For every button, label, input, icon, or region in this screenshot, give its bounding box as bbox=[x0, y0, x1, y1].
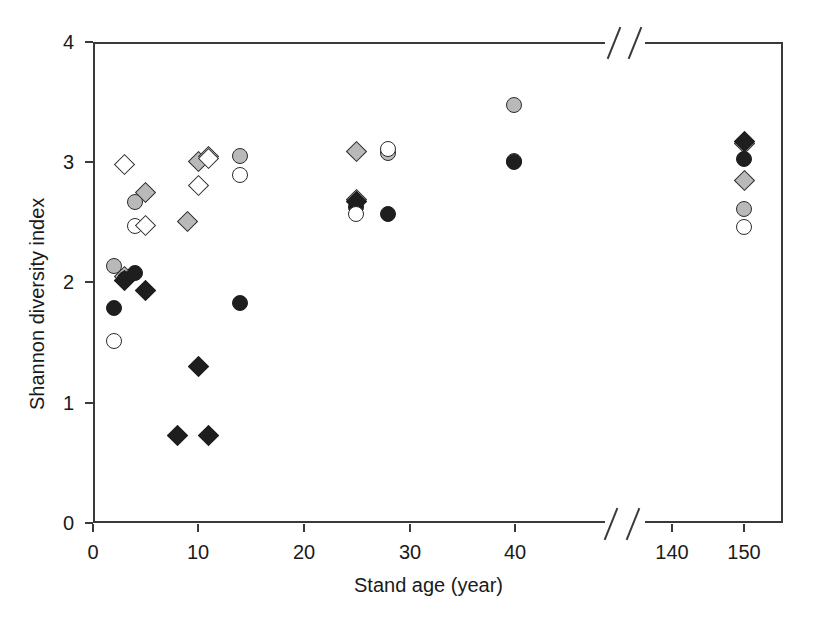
x-tick-label-150: 150 bbox=[717, 542, 771, 562]
x-tick-label-20: 20 bbox=[284, 542, 324, 562]
data-point-gray-circle bbox=[506, 97, 522, 113]
plot-frame bbox=[93, 42, 783, 523]
x-tick-label-40: 40 bbox=[495, 542, 535, 562]
data-point-black-circle bbox=[106, 300, 122, 316]
x-axis-title: Stand age (year) bbox=[354, 574, 503, 597]
data-point-open-circle bbox=[380, 141, 396, 157]
data-point-black-circle bbox=[736, 151, 752, 167]
x-tick-0 bbox=[92, 524, 94, 532]
x-tick-30 bbox=[409, 524, 411, 532]
x-tick-10 bbox=[197, 524, 199, 532]
x-tick-label-140: 140 bbox=[645, 542, 699, 562]
y-tick-label-3: 3 bbox=[44, 152, 74, 172]
data-point-black-circle bbox=[380, 206, 396, 222]
y-tick-2 bbox=[85, 281, 93, 283]
x-tick-150 bbox=[743, 524, 745, 532]
y-tick-4 bbox=[85, 41, 93, 43]
x-tick-label-10: 10 bbox=[178, 542, 218, 562]
data-point-open-circle bbox=[348, 206, 364, 222]
x-tick-40 bbox=[514, 524, 516, 532]
y-tick-3 bbox=[85, 161, 93, 163]
x-tick-label-0: 0 bbox=[73, 542, 113, 562]
x-tick-140 bbox=[671, 524, 673, 532]
y-axis-title: Shannon diversity index bbox=[26, 198, 49, 410]
y-tick-1 bbox=[85, 402, 93, 404]
x-tick-label-30: 30 bbox=[390, 542, 430, 562]
y-tick-label-4: 4 bbox=[44, 32, 74, 52]
figure-root: 4 3 2 1 0 0 10 20 30 40 140 150 Stand ag… bbox=[0, 0, 815, 622]
y-tick-label-0: 0 bbox=[44, 513, 74, 533]
x-tick-20 bbox=[303, 524, 305, 532]
